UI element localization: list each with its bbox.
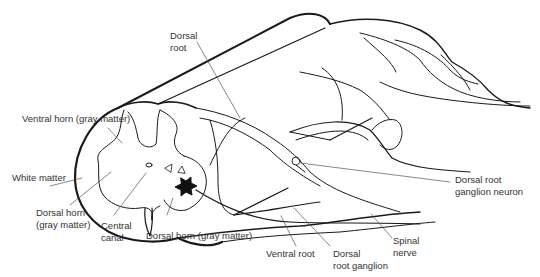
label-ventral-root: Ventral root bbox=[266, 248, 315, 260]
label-dorsal-horn-center: Dorsal horn (gray matter) bbox=[146, 230, 252, 242]
label-line: nerve bbox=[393, 247, 419, 259]
label-line: root ganglion bbox=[333, 260, 388, 272]
label-spinal-nerve: Spinal nerve bbox=[393, 235, 419, 259]
label-drg-neuron: Dorsal root ganglion neuron bbox=[455, 174, 523, 198]
label-dorsal-root: Dorsal root bbox=[170, 30, 197, 54]
label-line: White matter bbox=[12, 172, 66, 184]
label-line: Ventral horn (gray matter) bbox=[22, 113, 130, 125]
label-line: Spinal bbox=[393, 235, 419, 247]
label-ventral-horn: Ventral horn (gray matter) bbox=[22, 113, 130, 125]
label-dorsal-root-ganglion: Dorsal root ganglion bbox=[333, 248, 388, 272]
cord-body bbox=[118, 14, 530, 108]
label-line: Dorsal root bbox=[455, 174, 523, 186]
label-line: canal bbox=[101, 232, 132, 244]
label-line: Ventral root bbox=[266, 248, 315, 260]
label-line: (gray matter) bbox=[36, 219, 90, 231]
label-line: Dorsal bbox=[333, 248, 388, 260]
label-dorsal-horn-left: Dorsal horn (gray matter) bbox=[36, 207, 90, 231]
label-line: Dorsal bbox=[170, 30, 197, 42]
label-white-matter: White matter bbox=[12, 172, 66, 184]
label-line: root bbox=[170, 42, 197, 54]
label-line: Dorsal horn (gray matter) bbox=[146, 230, 252, 242]
nerve-roots bbox=[178, 33, 530, 242]
label-line: Dorsal horn bbox=[36, 207, 90, 219]
spinal-cord-diagram bbox=[0, 0, 540, 277]
label-line: ganglion neuron bbox=[455, 186, 523, 198]
label-central-canal: Central canal bbox=[101, 220, 132, 244]
label-line: Central bbox=[101, 220, 132, 232]
motor-neuron-icon bbox=[175, 177, 197, 196]
